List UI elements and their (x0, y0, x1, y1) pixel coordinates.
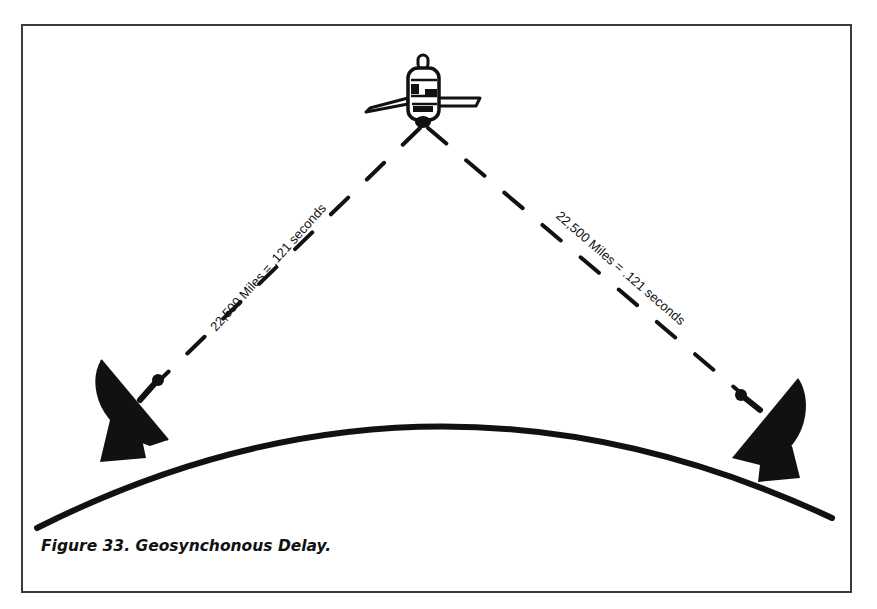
satellite-icon (366, 55, 480, 128)
figure-caption: Figure 33. Geosynchonous Delay. (41, 537, 331, 555)
geosync-diagram (0, 0, 877, 609)
right-satellite-dish-icon (732, 378, 806, 482)
left-satellite-dish-icon (95, 360, 168, 462)
right-signal-beam (428, 128, 742, 394)
